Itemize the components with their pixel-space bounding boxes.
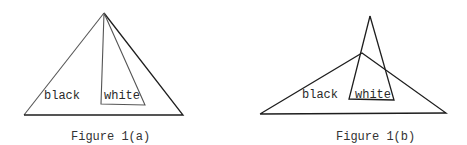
fig1b-black-label: black bbox=[302, 88, 338, 102]
figure-canvas: black white Figure 1(a) black white Figu… bbox=[0, 0, 467, 145]
fig1b-caption: Figure 1(b) bbox=[336, 130, 415, 144]
fig1a-caption: Figure 1(a) bbox=[71, 130, 150, 144]
fig1a-white-label: white bbox=[104, 89, 140, 103]
fig1b-white-label: white bbox=[355, 88, 391, 102]
fig1a-black-label: black bbox=[44, 89, 80, 103]
figure-1b: black white Figure 1(b) bbox=[260, 16, 446, 144]
figure-1a: black white Figure 1(a) bbox=[24, 13, 183, 144]
